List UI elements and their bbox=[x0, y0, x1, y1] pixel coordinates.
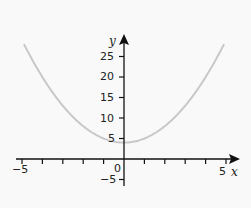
plot-svg bbox=[0, 0, 251, 208]
y-tick-label-10: 10 bbox=[100, 113, 114, 124]
x-axis-label: x bbox=[231, 166, 238, 178]
y-axis-label: y bbox=[109, 35, 116, 47]
y-tick-label-20: 20 bbox=[100, 71, 114, 82]
y-tick-label-15: 15 bbox=[100, 92, 114, 103]
y-tick-label-neg5: −5 bbox=[100, 174, 116, 185]
x-tick-label-5: 5 bbox=[219, 166, 226, 177]
y-tick-label-5: 5 bbox=[108, 133, 115, 144]
y-tick-label-25: 25 bbox=[100, 51, 114, 62]
x-tick-label-neg5: −5 bbox=[12, 164, 28, 175]
chart-area: y x 25 20 15 10 5 0 −5 −5 5 bbox=[0, 0, 251, 208]
